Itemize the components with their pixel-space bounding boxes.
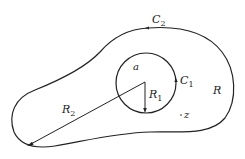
- r1-arrow-icon: [143, 108, 147, 113]
- inner-circle-c1: [116, 53, 176, 113]
- label-r2: R2: [61, 103, 75, 118]
- label-c1: C1: [180, 74, 194, 89]
- contour-diagram: C2 C1 R1 R2 a R z: [0, 0, 245, 159]
- label-c2: C2: [152, 13, 166, 28]
- r2-arrow-icon: [27, 142, 34, 146]
- radius-r2-line: [31, 82, 145, 144]
- label-a: a: [133, 61, 139, 72]
- outer-contour-c2: [12, 28, 234, 147]
- label-z: z: [183, 109, 190, 120]
- point-z-dot: [180, 114, 182, 116]
- c1-arrow-icon: [174, 78, 177, 82]
- label-r1: R1: [148, 88, 162, 103]
- label-region-r: R: [212, 84, 221, 97]
- c2-arrow-icon: [145, 26, 149, 29]
